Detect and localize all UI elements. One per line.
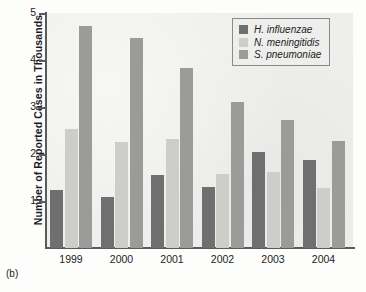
y-tick-mark <box>39 107 46 109</box>
legend-label-s-pneumoniae: S. pneumoniae <box>254 49 321 60</box>
y-tick-mark <box>39 13 46 15</box>
bar <box>79 26 92 248</box>
y-tick-label: 3 <box>18 100 36 112</box>
y-tick-mark <box>39 60 46 62</box>
legend: H. influenzae N. meningitidis S. pneumon… <box>232 18 330 66</box>
bar <box>130 38 143 248</box>
bar <box>332 141 345 248</box>
y-tick-label: 5 <box>18 6 36 18</box>
x-tick-label: 2004 <box>294 253 354 265</box>
bar <box>151 175 164 248</box>
legend-item[interactable]: N. meningitidis <box>239 36 321 48</box>
bar <box>166 139 179 248</box>
figure-caption: (b) <box>6 268 18 279</box>
y-tick-label: 4 <box>18 53 36 65</box>
bar <box>180 68 193 248</box>
bar <box>281 120 294 248</box>
bar <box>202 187 215 248</box>
legend-swatch-s-pneumoniae <box>239 50 248 59</box>
bar <box>252 152 265 248</box>
legend-swatch-h-influenzae <box>239 25 248 34</box>
y-axis-line <box>45 12 47 249</box>
bar <box>267 172 280 248</box>
bar <box>216 174 229 248</box>
legend-label-n-meningitidis: N. meningitidis <box>254 37 320 48</box>
bar <box>101 197 114 248</box>
bar <box>115 142 128 248</box>
legend-item[interactable]: H. influenzae <box>239 24 321 36</box>
bar <box>317 188 330 248</box>
bar <box>303 160 316 248</box>
y-tick-label: 2 <box>18 147 36 159</box>
bar <box>50 190 63 248</box>
y-tick-label: 1 <box>18 194 36 206</box>
bar <box>231 102 244 248</box>
legend-item[interactable]: S. pneumoniae <box>239 49 321 61</box>
bar-chart-figure: Number of Reported Cases in Thousands 12… <box>0 0 366 292</box>
legend-swatch-n-meningitidis <box>239 38 248 47</box>
bar <box>65 129 78 248</box>
y-tick-mark <box>39 154 46 156</box>
legend-label-h-influenzae: H. influenzae <box>254 24 312 35</box>
y-tick-mark <box>39 201 46 203</box>
